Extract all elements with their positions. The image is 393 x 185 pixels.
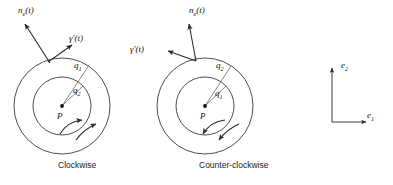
label-exterior-normal-counter-clockwise: ne(t) [189, 5, 205, 17]
panel-counter-clockwise [157, 24, 253, 154]
exterior-normal-vector-counter-clockwise [189, 24, 196, 61]
center-point-clockwise [60, 104, 64, 108]
label-center-point-clockwise: P [57, 111, 63, 121]
label-inner-radius-clockwise: q2 [73, 85, 81, 97]
tangent-vector-counter-clockwise [168, 51, 196, 61]
figure-canvas [0, 0, 393, 185]
orientation-arrow-outer-counter-clockwise [219, 124, 239, 140]
orientation-arrow-inner-clockwise [60, 120, 82, 134]
coordinate-frame [332, 68, 366, 122]
caption-clockwise: Clockwise [58, 160, 96, 170]
label-tangent-clockwise: γ′(t) [69, 33, 83, 43]
label-outer-radius-counter-clockwise: q2 [216, 60, 224, 72]
orientation-arrow-inner-counter-clockwise [203, 120, 225, 134]
label-exterior-normal-clockwise: ne(t) [18, 5, 34, 17]
label-center-point-counter-clockwise: P [200, 111, 206, 121]
exterior-normal-vector-clockwise [25, 24, 50, 63]
label-tangent-counter-clockwise: γ′(t) [130, 44, 144, 54]
orientation-arrow-outer-clockwise [76, 124, 96, 140]
label-e1-basis-vector: e1 [367, 110, 374, 122]
panel-clockwise [14, 24, 110, 154]
label-outer-radius-clockwise: q1 [74, 60, 82, 72]
label-e2-basis-vector: e2 [341, 60, 348, 72]
label-inner-radius-counter-clockwise: q1 [215, 88, 223, 100]
caption-counter-clockwise: Counter-clockwise [199, 160, 268, 170]
tangent-vector-clockwise [48, 45, 72, 62]
outer-radius-line-counter-clockwise [205, 66, 231, 106]
center-point-counter-clockwise [203, 104, 207, 108]
